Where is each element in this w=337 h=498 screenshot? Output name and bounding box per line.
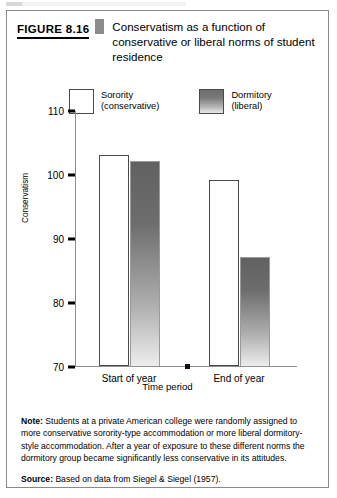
- legend-name-dormitory: Dormitory: [231, 90, 271, 100]
- header-divider-block: [95, 19, 104, 34]
- bar-dormitory-end: [240, 257, 270, 366]
- axis-center-marker: [185, 364, 190, 369]
- y-tick-100: 100: [38, 170, 75, 181]
- y-tick-mark: [68, 302, 75, 305]
- figure-title: Conservatism as a function of conservati…: [112, 19, 318, 64]
- y-tick-label: 90: [38, 234, 64, 245]
- legend-label-sorority: Sorority (conservative): [101, 89, 159, 113]
- bar-chart: Sorority (conservative) Dormitory (liber…: [7, 73, 328, 403]
- y-tick-80: 80: [38, 298, 75, 309]
- x-axis-label: Time period: [7, 381, 328, 392]
- legend-qualifier-sorority: (conservative): [101, 101, 159, 111]
- figure-notes: Note: Students at a private American col…: [21, 415, 314, 493]
- y-tick-mark: [68, 238, 75, 241]
- y-tick-mark: [68, 366, 75, 369]
- figure-header: FIGURE 8.16 Conservatism as a function o…: [7, 11, 328, 68]
- bar-sorority-end: [209, 180, 239, 366]
- source-label: Source:: [21, 474, 53, 484]
- bar-sorority-start: [99, 155, 129, 366]
- scan-artifact: [6, 2, 186, 6]
- legend-qualifier-dormitory: (liberal): [231, 101, 262, 111]
- y-tick-110: 110: [38, 106, 75, 117]
- figure-container: FIGURE 8.16 Conservatism as a function o…: [6, 10, 329, 488]
- y-axis-line: [75, 111, 76, 367]
- y-axis-label: Conservatism: [21, 173, 30, 223]
- legend-name-sorority: Sorority: [101, 90, 133, 100]
- y-tick-90: 90: [38, 234, 75, 245]
- plot-area: 110100908070Start of yearEnd of year: [75, 111, 297, 367]
- y-tick-label: 80: [38, 298, 64, 309]
- figure-number: FIGURE 8.16: [17, 23, 89, 39]
- y-tick-label: 70: [38, 362, 64, 373]
- source-text: Based on data from Siegel & Siegel (1957…: [53, 474, 221, 484]
- y-tick-label: 100: [38, 170, 64, 181]
- legend-label-dormitory: Dormitory (liberal): [231, 89, 271, 113]
- y-tick-label: 110: [38, 106, 64, 117]
- y-tick-mark: [68, 174, 75, 177]
- note-label: Note:: [21, 416, 43, 426]
- y-tick-mark: [68, 110, 75, 113]
- bar-dormitory-start: [130, 161, 160, 366]
- y-tick-70: 70: [38, 362, 75, 373]
- source-paragraph: Source: Based on data from Siegel & Sieg…: [21, 473, 314, 485]
- note-text: Students at a private American college w…: [21, 416, 305, 463]
- figure-number-wrap: FIGURE 8.16: [17, 19, 89, 64]
- note-paragraph: Note: Students at a private American col…: [21, 415, 314, 465]
